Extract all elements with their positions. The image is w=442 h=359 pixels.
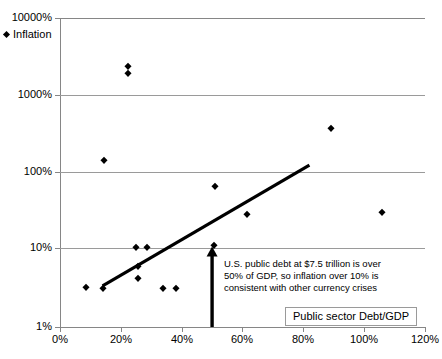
x-axis-label-40: 40% (159, 334, 205, 345)
x-tick-40 (182, 327, 183, 332)
x-axis-label-80: 80% (280, 334, 326, 345)
gridline-1000 (60, 95, 425, 96)
y-axis-label-1: 1% (0, 321, 52, 332)
annotation-text: U.S. public debt at $7.5 trillion is ove… (224, 258, 434, 294)
x-tick-80 (303, 327, 304, 332)
legend-inflation: Inflation (4, 28, 52, 40)
x-tick-0 (60, 327, 61, 332)
legend-inflation-label: Inflation (13, 28, 52, 40)
annotation-line-1: U.S. public debt at $7.5 trillion is ove… (224, 258, 434, 270)
y-tick-1000 (55, 95, 60, 96)
x-axis-label-60: 60% (219, 334, 265, 345)
annotation-line-2: 50% of GDP, so inflation over 10% is (224, 270, 434, 282)
x-axis-label-100: 100% (341, 334, 387, 345)
y-axis-label-100: 100% (0, 166, 52, 177)
x-axis-label-120: 120% (402, 334, 442, 345)
x-axis-label-20: 20% (98, 334, 144, 345)
x-tick-100 (364, 327, 365, 332)
y-axis-label-1000: 1000% (0, 89, 52, 100)
y-tick-100 (55, 172, 60, 173)
inflation-vs-debt-scatter-chart: Inflation 10000% 1000% 100% 10% 1% 0% 20… (0, 0, 442, 359)
x-tick-20 (121, 327, 122, 332)
y-tick-10 (55, 248, 60, 249)
x-tick-60 (242, 327, 243, 332)
annotation-line-3: consistent with other currency crises (224, 282, 434, 294)
y-axis-label-10: 10% (0, 242, 52, 253)
x-axis-label-0: 0% (37, 334, 83, 345)
y-axis-label-10000: 10000% (0, 12, 52, 23)
y-tick-10000 (55, 18, 60, 19)
gridline-10 (60, 248, 425, 249)
gridline-100 (60, 172, 425, 173)
diamond-marker-icon (3, 31, 10, 38)
legend-box-debt-gdp: Public sector Debt/GDP (285, 307, 417, 326)
x-tick-120 (425, 327, 426, 332)
